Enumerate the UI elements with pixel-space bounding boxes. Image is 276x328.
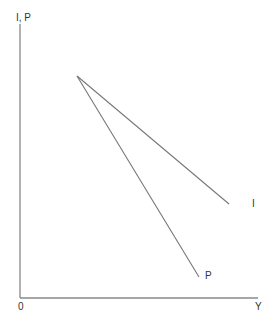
y-axis-label: I, P [16,13,31,23]
origin-label: 0 [18,302,24,312]
i-curve-label: I [252,199,255,209]
p-curve-label: P [205,271,212,281]
chart-canvas [0,0,276,328]
x-axis-label: Y [255,302,262,312]
p-curve [77,76,199,277]
i-curve [77,76,229,204]
